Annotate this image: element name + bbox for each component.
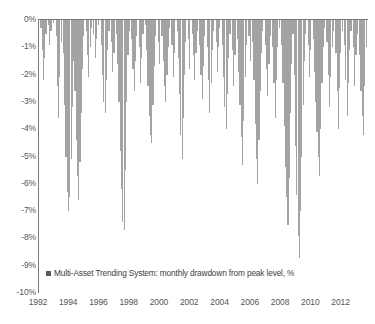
- bar: [174, 20, 175, 53]
- y-tick-label: -1%: [2, 42, 36, 51]
- bar: [98, 20, 99, 25]
- legend-square-marker: [46, 271, 51, 276]
- bar: [250, 20, 251, 61]
- plot-area: [38, 19, 368, 293]
- bar: [113, 20, 114, 53]
- x-axis: 1992199419961998200020022004200620082010…: [38, 298, 368, 312]
- y-tick-label: -3%: [2, 97, 36, 106]
- bar: [159, 20, 160, 64]
- bar: [246, 20, 247, 45]
- bar: [169, 20, 170, 28]
- bar: [155, 20, 156, 36]
- legend-label: Multi-Asset Trending System: monthly dra…: [54, 269, 294, 277]
- y-tick-label: 0%: [2, 15, 36, 24]
- bar: [213, 20, 214, 31]
- bar: [270, 20, 271, 36]
- chart-legend: Multi-Asset Trending System: monthly dra…: [46, 269, 294, 277]
- y-tick-label: -7%: [2, 206, 36, 215]
- bar: [197, 20, 198, 31]
- y-tick-label: -2%: [2, 70, 36, 79]
- x-tick-label: 2012: [331, 298, 350, 307]
- bar: [142, 20, 143, 34]
- bar: [61, 20, 62, 42]
- y-tick-label: -10%: [2, 288, 36, 297]
- x-tick-label: 2000: [150, 298, 169, 307]
- x-tick-label: 1992: [29, 298, 48, 307]
- y-tick-label: -5%: [2, 152, 36, 161]
- bar: [96, 20, 97, 39]
- bar: [53, 20, 54, 23]
- bar: [83, 20, 84, 36]
- bar: [136, 20, 137, 36]
- x-tick-label: 2006: [241, 298, 260, 307]
- drawdown-chart: 1992199419961998200020022004200620082010…: [0, 0, 375, 324]
- x-tick-label: 1996: [89, 298, 108, 307]
- bar: [189, 20, 190, 69]
- bar: [219, 20, 220, 28]
- bar: [333, 20, 334, 31]
- x-tick-label: 2008: [271, 298, 290, 307]
- bar: [305, 20, 306, 34]
- x-tick-label: 1998: [119, 298, 138, 307]
- bars-layer: [39, 20, 368, 293]
- y-tick-label: -6%: [2, 179, 36, 188]
- bar: [91, 20, 92, 28]
- bar: [357, 20, 358, 34]
- bar: [129, 20, 130, 31]
- y-tick-label: -9%: [2, 261, 36, 270]
- bar: [350, 20, 351, 31]
- bar: [204, 20, 205, 36]
- bar: [108, 20, 109, 31]
- x-tick-label: 2004: [210, 298, 229, 307]
- bar: [234, 20, 235, 55]
- bar: [279, 20, 280, 28]
- bar: [324, 20, 325, 28]
- x-tick-label: 1994: [59, 298, 78, 307]
- bar: [310, 20, 311, 50]
- y-tick-label: -8%: [2, 233, 36, 242]
- bar: [50, 20, 51, 31]
- bar: [366, 20, 367, 47]
- bar: [185, 20, 186, 42]
- y-tick-label: -4%: [2, 124, 36, 133]
- bar: [229, 20, 230, 34]
- x-tick-label: 2010: [301, 298, 320, 307]
- bar: [342, 20, 343, 31]
- bar: [262, 20, 263, 31]
- x-tick-label: 2002: [180, 298, 199, 307]
- bar: [45, 20, 46, 34]
